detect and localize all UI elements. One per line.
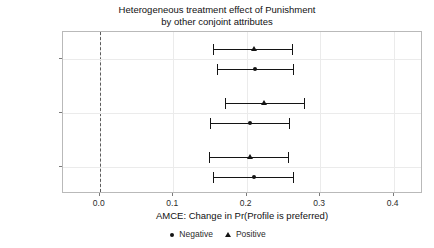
zero-reference-line <box>100 32 101 192</box>
x-tick-mark <box>172 193 173 196</box>
y-tick-mark <box>59 58 62 59</box>
ci-cap-high <box>288 152 289 163</box>
x-axis-title: AMCE: Change in Pr(Profile is preferred) <box>62 210 422 221</box>
estimate-point-positive <box>251 46 257 51</box>
chart-title: Heterogeneous treatment effect of Punish… <box>0 4 434 27</box>
estimate-point-positive <box>261 100 267 105</box>
ci-cap-low <box>213 172 214 183</box>
x-gridline <box>320 32 321 192</box>
chart-legend: Negative Positive <box>0 229 434 239</box>
chart-title-line-2: by other conjoint attributes <box>0 16 434 28</box>
chart-figure: Heterogeneous treatment effect of Punish… <box>0 0 434 248</box>
x-tick-label: 0.4 <box>387 198 399 208</box>
estimate-point-positive <box>247 154 253 159</box>
ci-cap-low <box>217 64 218 75</box>
legend-label-negative: Negative <box>179 229 213 239</box>
y-tick-mark <box>59 112 62 113</box>
ci-cap-low <box>213 44 214 55</box>
y-gridline <box>63 59 421 60</box>
x-tick-label: 0.3 <box>313 198 325 208</box>
ci-cap-low <box>209 152 210 163</box>
triangle-marker-icon <box>225 231 232 238</box>
x-tick-mark <box>319 193 320 196</box>
y-gridline <box>63 113 421 114</box>
chart-title-line-1: Heterogeneous treatment effect of Punish… <box>0 4 434 16</box>
ci-cap-high <box>293 64 294 75</box>
legend-label-positive: Positive <box>236 229 266 239</box>
ci-cap-low <box>210 118 211 129</box>
x-tick-mark <box>99 193 100 196</box>
legend-item-negative: Negative <box>168 229 213 239</box>
plot-area <box>63 32 421 192</box>
x-tick-label: 0.1 <box>166 198 178 208</box>
ci-cap-high <box>304 98 305 109</box>
ci-cap-low <box>225 98 226 109</box>
x-gridline <box>247 32 248 192</box>
x-gridline <box>394 32 395 192</box>
circle-marker-icon <box>168 231 175 238</box>
estimate-point-negative <box>252 175 256 179</box>
x-gridline <box>173 32 174 192</box>
x-tick-mark <box>246 193 247 196</box>
x-tick-label: 0.2 <box>240 198 252 208</box>
ci-cap-high <box>293 172 294 183</box>
y-gridline <box>63 167 421 168</box>
ci-cap-high <box>289 118 290 129</box>
legend-item-positive: Positive <box>225 229 266 239</box>
x-tick-label: 0.0 <box>93 198 105 208</box>
plot-panel <box>62 31 422 193</box>
x-tick-mark <box>393 193 394 196</box>
y-tick-mark <box>59 166 62 167</box>
ci-cap-high <box>292 44 293 55</box>
